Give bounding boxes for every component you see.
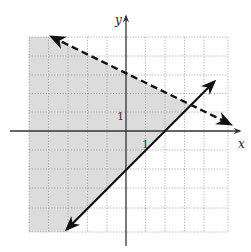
y-axis-label: y	[114, 13, 122, 27]
shaded-region	[29, 37, 191, 232]
x-tick-label-1: 1	[142, 138, 149, 151]
x-axis-label: x	[238, 137, 245, 151]
y-tick-label-1: 1	[117, 110, 124, 123]
graph: y x 1 1	[0, 0, 251, 252]
